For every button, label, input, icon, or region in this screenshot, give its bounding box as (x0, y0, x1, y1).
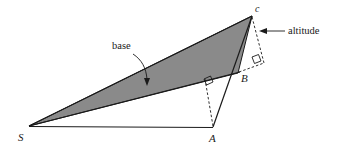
geometry-canvas (0, 0, 342, 149)
base-line-S-A (29, 127, 213, 128)
altitude-dashed-from-A (205, 79, 213, 126)
dashed-segment-B-to-altitude-foot (239, 63, 264, 72)
vertex-label-B: B (241, 73, 248, 84)
vertex-label-S: S (18, 132, 24, 143)
altitude-arrowhead (259, 28, 267, 34)
geometry-figure: c B A S base altitude (0, 0, 342, 149)
annotation-label-altitude: altitude (288, 26, 320, 37)
vertex-label-A: A (209, 133, 216, 144)
right-angle-marker-upper (252, 55, 261, 64)
vertex-label-c: c (255, 4, 259, 14)
annotation-label-base: base (112, 41, 131, 52)
